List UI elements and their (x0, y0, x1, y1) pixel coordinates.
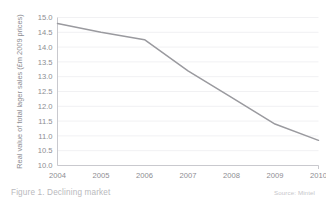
data-series-line (58, 23, 319, 140)
y-tick-label: 12.0 (38, 102, 53, 111)
figure-caption: Figure 1. Declining market (11, 188, 110, 197)
caption-bar: Figure 1. Declining market Source: Minte… (0, 180, 326, 204)
chart-plot-area: 15.014.514.013.513.012.512.011.511.010.5… (0, 0, 326, 178)
x-tick-label: 2007 (180, 171, 197, 178)
y-tick-label: 10.0 (38, 161, 53, 170)
y-tick-label: 14.5 (38, 28, 53, 37)
x-tick-label: 2004 (49, 171, 66, 178)
y-tick-label: 11.0 (38, 132, 52, 141)
x-tick-labels-group: 2004200520062007200820092010 (49, 171, 326, 178)
y-tick-label: 15.0 (38, 13, 53, 22)
x-tick-label: 2005 (93, 171, 110, 178)
line-chart-svg: 15.014.514.013.513.012.512.011.511.010.5… (0, 0, 326, 178)
y-tick-label: 14.0 (38, 43, 53, 52)
y-tick-label: 13.5 (38, 58, 53, 67)
y-axis-title: Real value of total lager sales (£m 2009… (15, 14, 24, 168)
gridlines-group (58, 18, 319, 166)
x-tick-label: 2010 (310, 171, 326, 178)
x-tick-label: 2008 (223, 171, 240, 178)
x-tick-label: 2006 (136, 171, 153, 178)
y-tick-label: 13.0 (38, 72, 53, 81)
y-tick-label: 10.5 (38, 146, 53, 155)
figure-source: Source: Mintel (274, 189, 315, 196)
x-tick-label: 2009 (267, 171, 284, 178)
figure-container: 15.014.514.013.513.012.512.011.511.010.5… (0, 0, 326, 204)
y-tick-label: 11.5 (38, 117, 52, 126)
y-tick-label: 12.5 (38, 87, 53, 96)
y-tick-labels-group: 15.014.514.013.513.012.512.011.511.010.5… (38, 13, 53, 170)
